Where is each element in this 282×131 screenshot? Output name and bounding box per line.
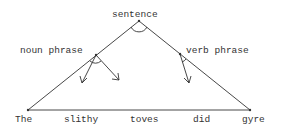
edge-sentence-to-gyre — [139, 21, 250, 110]
word-the: The — [15, 114, 32, 125]
noun-phrase-label: noun phrase — [20, 45, 83, 56]
word-gyre: gyre — [242, 114, 265, 125]
noun-arrow-right — [96, 55, 119, 80]
word-slithy: slithy — [64, 114, 99, 125]
sentence-node — [138, 20, 140, 22]
word-did: did — [193, 114, 210, 125]
edge-sentence-to-the — [28, 21, 139, 110]
the-node — [27, 109, 29, 111]
parse-tree-diagram: sentence noun phrase verb phrase The sli… — [0, 0, 282, 131]
word-toves: toves — [130, 114, 159, 125]
sentence-angle-arc — [131, 27, 147, 32]
verb-phrase-label: verb phrase — [186, 45, 249, 56]
noun-arrow-left — [82, 55, 96, 83]
sentence-label: sentence — [112, 9, 158, 20]
verb-phrase-angle-arc — [182, 59, 186, 62]
gyre-node — [249, 109, 251, 111]
